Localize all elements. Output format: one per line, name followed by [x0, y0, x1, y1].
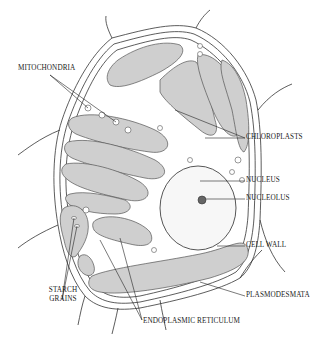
label-chloroplasts: CHLOROPLASTS: [246, 134, 303, 141]
label-nucleolus: NUCLEOLUS: [246, 195, 290, 202]
label-nucleus: NUCLEUS: [246, 177, 280, 184]
label-starch-grains-line1: STARCH: [49, 286, 77, 294]
label-cell-wall: CELL WALL: [246, 242, 286, 249]
nucleolus: [198, 196, 206, 204]
label-starch-grains: STARCH GRAINS: [44, 286, 82, 304]
label-plasmodesmata: PLASMODESMATA: [246, 292, 310, 299]
nucleus: [160, 166, 236, 250]
label-mitochondria: MITOCHONDRIA: [18, 65, 75, 72]
label-starch-grains-line2: GRAINS: [49, 295, 76, 303]
chloroplasts-group: [60, 43, 249, 293]
label-endoplasmic-reticulum: ENDOPLASMIC RETICULUM: [143, 318, 240, 325]
